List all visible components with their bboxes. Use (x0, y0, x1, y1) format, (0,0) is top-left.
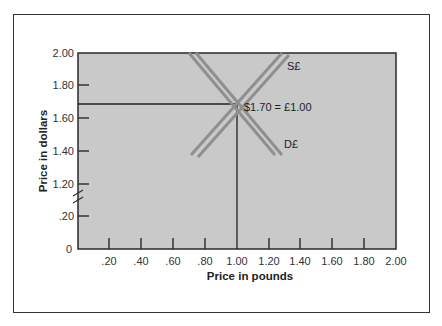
x-tick-label: 1.40 (289, 255, 310, 267)
x-tick-label: 1.80 (353, 255, 374, 267)
demand-label: D£ (284, 138, 298, 150)
y-tick-label: 1.40 (53, 145, 74, 157)
x-axis-title: Price in pounds (207, 270, 293, 282)
x-tick-labels: .20 .40 .60 .80 1.00 1.20 1.40 1.60 1.80… (101, 255, 406, 267)
x-tick-label: .40 (133, 255, 148, 267)
y-tick-label: 0 (66, 243, 72, 255)
y-tick-labels: 2.00 1.80 1.60 1.40 1.20 .20 0 (53, 47, 74, 255)
x-tick-label: 1.60 (321, 255, 342, 267)
x-tick-label: .80 (197, 255, 212, 267)
x-tick-label: 2.00 (385, 255, 406, 267)
y-tick-label: 1.60 (53, 112, 74, 124)
y-axis-title: Price in dollars (37, 110, 49, 192)
x-tick-label: .60 (165, 255, 180, 267)
chart-svg: S£ $1.70 = £1.00 D£ 2.00 1.80 1.60 1.40 … (0, 0, 442, 326)
y-tick-label: 1.20 (53, 178, 74, 190)
y-tick-label: 1.80 (53, 79, 74, 91)
x-tick-label: .20 (101, 255, 116, 267)
equilibrium-label: $1.70 = £1.00 (244, 101, 312, 113)
y-tick-label: 2.00 (53, 47, 74, 59)
x-tick-label: 1.20 (258, 255, 279, 267)
y-tick-label: .20 (59, 210, 74, 222)
supply-label: S£ (287, 60, 300, 72)
x-tick-label: 1.00 (226, 255, 247, 267)
